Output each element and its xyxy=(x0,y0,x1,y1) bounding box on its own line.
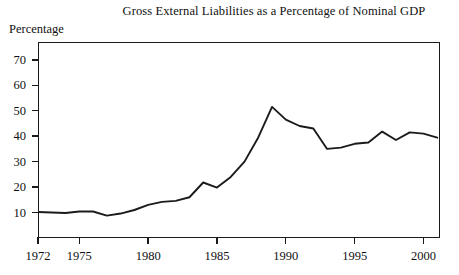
x-tick-mark xyxy=(423,237,424,244)
x-tick-label: 1985 xyxy=(204,250,229,263)
y-tick-mark xyxy=(32,212,39,213)
y-tick-label: 40 xyxy=(0,130,26,143)
y-tick-mark xyxy=(32,85,39,86)
x-tick-label: 1995 xyxy=(342,250,367,263)
y-tick-label: 70 xyxy=(0,54,26,67)
y-tick-mark xyxy=(32,59,39,60)
x-tick-label: 1972 xyxy=(26,250,51,263)
data-series-line xyxy=(38,107,437,216)
x-tick-label: 2000 xyxy=(411,250,436,263)
x-tick-mark xyxy=(285,237,286,244)
x-tick-label: 1980 xyxy=(136,250,161,263)
y-tick-mark xyxy=(32,110,39,111)
x-tick-mark xyxy=(147,237,148,244)
x-tick-label: 1990 xyxy=(273,250,298,263)
y-tick-label: 20 xyxy=(0,181,26,194)
y-tick-label: 10 xyxy=(0,207,26,220)
y-tick-mark xyxy=(32,186,39,187)
y-tick-label: 60 xyxy=(0,79,26,92)
x-tick-mark xyxy=(37,237,38,244)
x-tick-mark xyxy=(354,237,355,244)
x-tick-mark xyxy=(216,237,217,244)
y-tick-label: 50 xyxy=(0,105,26,118)
y-axis-label: Percentage xyxy=(9,22,64,37)
y-tick-mark xyxy=(32,135,39,136)
chart-title: Gross External Liabilities as a Percenta… xyxy=(104,4,444,19)
x-tick-label: 1975 xyxy=(67,250,92,263)
y-tick-label: 30 xyxy=(0,156,26,169)
x-tick-mark xyxy=(79,237,80,244)
plot-canvas xyxy=(38,42,440,238)
chart-figure: Gross External Liabilities as a Percenta… xyxy=(0,0,459,275)
y-tick-mark xyxy=(32,161,39,162)
